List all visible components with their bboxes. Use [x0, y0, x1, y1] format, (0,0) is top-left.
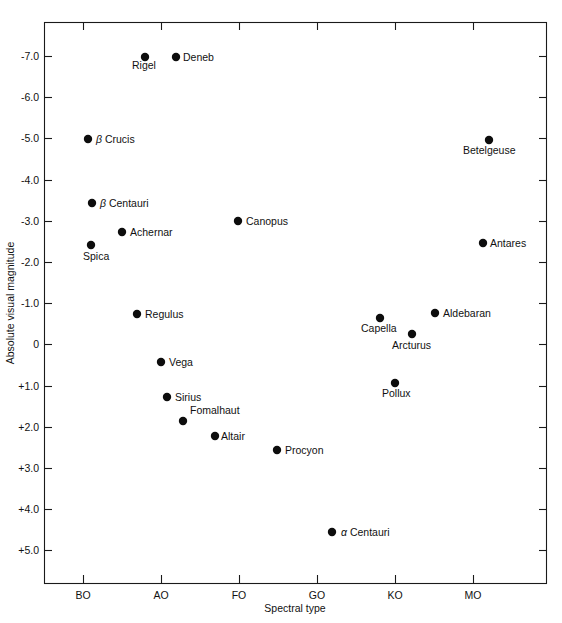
plot-frame [45, 23, 547, 584]
star-marker[interactable] [431, 309, 439, 317]
star-marker[interactable] [157, 358, 165, 366]
y-tick-label: +1.0 [18, 380, 39, 392]
star-label: β Centauri [99, 197, 149, 209]
star-label: Canopus [246, 215, 288, 227]
y-tick-label: +4.0 [18, 503, 39, 515]
star-marker[interactable] [88, 199, 96, 207]
data-point[interactable]: Arcturus [392, 330, 431, 351]
data-point[interactable]: β Centauri [88, 197, 149, 209]
star-marker[interactable] [479, 239, 487, 247]
star-marker[interactable] [391, 379, 399, 387]
star-label: Spica [83, 250, 109, 262]
data-point[interactable]: Capella [361, 314, 397, 334]
y-tick-label: -5.0 [21, 132, 39, 144]
data-point[interactable]: β Crucis [84, 133, 135, 145]
star-marker[interactable] [84, 135, 92, 143]
x-tick-label: MO [465, 589, 482, 601]
star-label: Capella [361, 322, 397, 334]
y-tick-label: -2.0 [21, 256, 39, 268]
data-point[interactable]: Aldebaran [431, 307, 491, 319]
star-label: Deneb [183, 51, 214, 63]
data-point[interactable]: Antares [479, 237, 526, 249]
y-tick-label: +3.0 [18, 462, 39, 474]
star-marker[interactable] [273, 446, 281, 454]
star-marker[interactable] [133, 310, 141, 318]
star-marker[interactable] [234, 217, 242, 225]
data-point[interactable]: Canopus [234, 215, 288, 227]
x-tick-label: FO [232, 589, 247, 601]
star-label: Procyon [285, 444, 324, 456]
star-label: Rigel [132, 59, 156, 71]
data-point[interactable]: Spica [83, 241, 109, 262]
data-point[interactable]: Regulus [133, 308, 184, 320]
y-tick-label: -3.0 [21, 215, 39, 227]
y-tick-label: 0 [33, 338, 39, 350]
data-point[interactable]: Altair [211, 430, 246, 442]
data-point[interactable]: Procyon [273, 444, 324, 456]
star-marker[interactable] [118, 228, 126, 236]
y-tick-label: -1.0 [21, 297, 39, 309]
star-label: Betelgeuse [463, 144, 516, 156]
x-axis-title: Spectral type [264, 602, 325, 614]
data-point[interactable]: Sirius [163, 391, 201, 403]
data-point[interactable]: Betelgeuse [463, 136, 516, 156]
data-point[interactable]: Deneb [172, 51, 214, 63]
data-point[interactable]: Fomalhaut [179, 404, 240, 425]
star-label: Antares [490, 237, 526, 249]
x-tick-labels-group: BOAOFOGOKOMO [75, 589, 481, 601]
star-label: Aldebaran [443, 307, 491, 319]
star-label: β Crucis [95, 133, 135, 145]
star-label: Regulus [145, 308, 184, 320]
y-tick-label: -7.0 [21, 50, 39, 62]
data-point[interactable]: Achernar [118, 226, 173, 238]
y-tick-label: -6.0 [21, 91, 39, 103]
star-marker[interactable] [328, 528, 336, 536]
y-tick-labels-group: -7.0-6.0-5.0-4.0-3.0-2.0-1.00+1.0+2.0+3.… [18, 50, 39, 556]
star-marker[interactable] [376, 314, 384, 322]
star-marker[interactable] [172, 53, 180, 61]
data-point[interactable]: α Centauri [328, 526, 390, 538]
star-marker[interactable] [87, 241, 95, 249]
x-tick-label: AO [153, 589, 168, 601]
star-marker[interactable] [163, 393, 171, 401]
data-points-group: RigelDenebβ CrucisBetelgeuseβ CentauriCa… [83, 51, 526, 538]
x-tick-label: BO [75, 589, 90, 601]
star-label: α Centauri [341, 526, 390, 538]
scatter-plot-svg: BOAOFOGOKOMO -7.0-6.0-5.0-4.0-3.0-2.0-1.… [0, 0, 562, 623]
data-point[interactable]: Rigel [132, 53, 156, 71]
star-label: Fomalhaut [190, 404, 240, 416]
y-tick-label: -4.0 [21, 174, 39, 186]
star-marker[interactable] [179, 417, 187, 425]
y-axis-title: Absolute visual magnitude [4, 242, 16, 365]
axis-ticks-group [44, 22, 547, 583]
star-label: Achernar [130, 226, 173, 238]
star-label: Sirius [175, 391, 201, 403]
data-point[interactable]: Pollux [382, 379, 411, 399]
x-tick-label: KO [387, 589, 402, 601]
star-label: Arcturus [392, 339, 431, 351]
y-tick-label: +2.0 [18, 421, 39, 433]
star-label: Pollux [382, 387, 411, 399]
star-marker[interactable] [408, 330, 416, 338]
star-label: Vega [169, 356, 193, 368]
star-marker[interactable] [211, 432, 219, 440]
star-label: Altair [221, 430, 245, 442]
star-marker[interactable] [485, 136, 493, 144]
y-tick-label: +5.0 [18, 544, 39, 556]
data-point[interactable]: Vega [157, 356, 193, 368]
x-tick-label: GO [309, 589, 325, 601]
hr-diagram-figure: BOAOFOGOKOMO -7.0-6.0-5.0-4.0-3.0-2.0-1.… [0, 0, 562, 623]
